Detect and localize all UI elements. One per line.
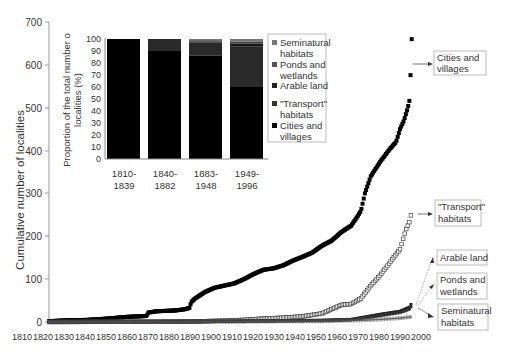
y-tick-700: 700	[25, 17, 42, 28]
legend-label: Ponds and	[280, 59, 325, 70]
x-tick: 1970	[348, 332, 368, 342]
series-transport-habitats	[47, 214, 413, 324]
inset-bars	[107, 39, 263, 159]
callout-ponds: Ponds and wetlands	[418, 273, 487, 306]
inset-bar-segment	[189, 56, 222, 159]
inset-y-axis-label-line1: Proportion of the total number o	[61, 33, 72, 167]
inset-bar-segment	[107, 39, 140, 159]
callout-label: habitats	[441, 317, 475, 328]
callout-transport: "Transport" habitats	[418, 200, 485, 226]
legend-swatch-seminatural	[272, 40, 277, 45]
inset-bar-segment	[230, 87, 263, 159]
callout-seminatural: Seminatural habitats	[418, 304, 492, 330]
main-x-tick-labels: 1810 1820 1830 1840 1850 1860 1870 1880 …	[12, 332, 431, 342]
legend-label: Seminatural	[280, 37, 331, 48]
callout-label: villages	[437, 63, 469, 74]
inset-bar-segment	[148, 51, 181, 159]
inset-y-tick: 30	[91, 118, 101, 128]
inset-y-tick: 50	[91, 94, 101, 104]
inset-bar-segment	[230, 46, 263, 87]
x-tick: 1960	[327, 332, 347, 342]
inset-x-tick: 1948	[195, 180, 216, 191]
x-tick: 1940	[285, 332, 305, 342]
inset-x-tick: 1882	[154, 180, 175, 191]
legend-label: "Transport"	[280, 98, 327, 109]
inset-y-tick: 20	[91, 130, 101, 140]
x-tick: 1890	[180, 332, 200, 342]
inset-bar-segment	[230, 44, 263, 46]
inset-x-tick: 1949-	[235, 168, 259, 179]
inset-x-tick-labels: 1810- 1839 1840- 1882 1883- 1948 1949- 1…	[112, 168, 259, 191]
callout-label: Seminatural	[441, 305, 492, 316]
legend-label: Arable land	[280, 80, 328, 91]
main-y-axis-label: Cumulative number of localities	[14, 110, 26, 270]
y-tick-600: 600	[25, 60, 42, 71]
x-tick: 1820	[33, 332, 53, 342]
callout-label: Cities and	[437, 52, 479, 63]
inset-chart: 0 10 20 30 40 50 60 70 80 90 100 Proport…	[61, 33, 331, 191]
x-tick: 1900	[201, 332, 221, 342]
x-tick: 1990	[390, 332, 410, 342]
x-tick: 1910	[222, 332, 242, 342]
x-tick: 1880	[159, 332, 179, 342]
y-tick-300: 300	[25, 188, 42, 199]
inset-bar-segment	[148, 39, 181, 51]
x-tick: 1850	[96, 332, 116, 342]
y-tick-400: 400	[25, 146, 42, 157]
inset-bar-segment	[230, 39, 263, 41]
inset-y-tick: 10	[91, 142, 101, 152]
legend-label: habitats	[280, 109, 314, 120]
x-tick: 1830	[54, 332, 74, 342]
legend-label: villages	[280, 131, 312, 142]
callout-label: "Transport"	[438, 201, 485, 212]
x-tick: 1930	[264, 332, 284, 342]
inset-y-tick: 90	[91, 46, 101, 56]
inset-y-tick: 0	[96, 154, 101, 164]
main-y-tick-labels: 0 100 200 300 400 500 600 700	[25, 17, 42, 328]
callout-label: wetlands	[439, 286, 478, 297]
x-tick: 1860	[117, 332, 137, 342]
inset-x-tick: 1839	[113, 180, 134, 191]
x-tick: 1920	[243, 332, 263, 342]
inset-y-tick: 40	[91, 106, 101, 116]
inset-bar-segment	[230, 41, 263, 43]
legend-label: habitats	[280, 48, 314, 59]
legend-swatch-ponds	[272, 62, 277, 67]
inset-y-tick-labels: 0 10 20 30 40 50 60 70 80 90 100	[86, 34, 101, 164]
callout-label: Ponds and	[440, 274, 485, 285]
callout-cities: Cities and villages	[413, 51, 486, 75]
legend-swatch-arable	[272, 83, 277, 88]
callout-label: Arable land	[440, 252, 488, 263]
inset-bar-segment	[189, 40, 222, 41]
x-tick: 1810	[12, 332, 32, 342]
inset-x-tick: 1883-	[194, 168, 218, 179]
y-tick-500: 500	[25, 103, 42, 114]
chart-canvas: 0 100 200 300 400 500 600 700 Cumulative…	[0, 0, 508, 358]
x-tick: 1950	[306, 332, 326, 342]
inset-x-tick: 1840-	[153, 168, 177, 179]
inset-x-tick: 1996	[236, 180, 257, 191]
inset-legend: Seminatural habitats Ponds and wetlands …	[268, 34, 331, 142]
x-tick: 1980	[369, 332, 389, 342]
inset-x-tick: 1810-	[112, 168, 136, 179]
inset-y-tick: 100	[86, 34, 101, 44]
inset-y-axis-label-line2: localities (%)	[72, 73, 83, 127]
y-tick-0: 0	[36, 317, 42, 328]
main-y-axis	[45, 22, 49, 322]
legend-swatch-transport	[272, 101, 277, 106]
legend-label: Cities and	[280, 120, 322, 131]
y-tick-100: 100	[25, 274, 42, 285]
inset-y-tick: 80	[91, 58, 101, 68]
inset-bar-segment	[189, 39, 222, 40]
inset-bar-segment	[189, 43, 222, 56]
legend-swatch-cities	[272, 123, 277, 128]
inset-y-tick: 60	[91, 82, 101, 92]
inset-y-tick: 70	[91, 70, 101, 80]
x-tick: 2000	[411, 332, 431, 342]
callout-label: habitats	[438, 213, 472, 224]
inset-bar-segment	[189, 41, 222, 42]
x-tick: 1840	[75, 332, 95, 342]
x-tick: 1870	[138, 332, 158, 342]
y-tick-200: 200	[25, 231, 42, 242]
